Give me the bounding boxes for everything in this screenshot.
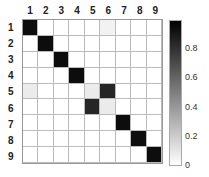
colorbar-tick-label: 0: [185, 160, 190, 170]
heatmap-cell: [23, 52, 38, 68]
x-tick-label: 1: [22, 5, 38, 16]
heatmap-cell: [147, 52, 162, 68]
heatmap-cell: [38, 68, 53, 84]
heatmap-cell: [147, 20, 162, 36]
x-tick-label: 7: [116, 5, 132, 16]
heatmap-cell: [69, 115, 84, 131]
heatmap-cell: [23, 20, 38, 36]
heatmap-cell: [100, 84, 115, 100]
colorbar-tick-label: 0.8: [185, 43, 198, 53]
heatmap-cell: [23, 84, 38, 100]
heatmap-cell: [38, 84, 53, 100]
heatmap-cell: [54, 99, 69, 115]
y-tick-label: 2: [8, 38, 14, 49]
heatmap-cell: [116, 147, 131, 163]
heatmap-cell: [131, 131, 146, 147]
heatmap-cell: [23, 115, 38, 131]
x-tick-label: 5: [85, 5, 101, 16]
heatmap-cell: [69, 99, 84, 115]
colorbar-tick-label: 0.4: [185, 102, 198, 112]
heatmap-cell: [85, 20, 100, 36]
heatmap-cell: [100, 115, 115, 131]
y-tick-label: 8: [8, 135, 14, 146]
y-tick-label: 3: [8, 54, 14, 65]
heatmap-cell: [131, 20, 146, 36]
heatmap-cell: [116, 99, 131, 115]
heatmap-cell: [85, 99, 100, 115]
heatmap-cell: [23, 36, 38, 52]
heatmap-cell: [23, 99, 38, 115]
heatmap-cell: [23, 131, 38, 147]
heatmap-cell: [131, 52, 146, 68]
heatmap-cell: [69, 68, 84, 84]
x-tick-label: 4: [69, 5, 85, 16]
heatmap-cell: [100, 99, 115, 115]
heatmap-cell: [69, 52, 84, 68]
x-tick-label: 2: [38, 5, 54, 16]
heatmap-cell: [116, 36, 131, 52]
y-tick-label: 5: [8, 86, 14, 97]
heatmap-cell: [69, 36, 84, 52]
y-tick-label: 9: [8, 151, 14, 162]
heatmap-cell: [100, 131, 115, 147]
heatmap-cell: [38, 36, 53, 52]
heatmap-cell: [23, 147, 38, 163]
heatmap-cell: [100, 20, 115, 36]
colorbar-tick-label: 0.6: [185, 72, 198, 82]
heatmap-cell: [147, 147, 162, 163]
heatmap-cell: [131, 36, 146, 52]
heatmap-cell: [38, 52, 53, 68]
heatmap-grid: [22, 19, 163, 164]
y-tick-label: 6: [8, 103, 14, 114]
heatmap-cell: [100, 68, 115, 84]
heatmap-cell: [54, 20, 69, 36]
heatmap-cell: [147, 131, 162, 147]
heatmap-cell: [147, 84, 162, 100]
heatmap-cell: [23, 68, 38, 84]
heatmap-cell: [116, 52, 131, 68]
heatmap-cell: [38, 99, 53, 115]
heatmap-cell: [116, 84, 131, 100]
heatmap-cell: [69, 84, 84, 100]
heatmap-cell: [85, 84, 100, 100]
heatmap-cell: [54, 131, 69, 147]
heatmap-cell: [54, 84, 69, 100]
heatmap-cell: [69, 20, 84, 36]
heatmap-cell: [85, 36, 100, 52]
heatmap-cell: [116, 115, 131, 131]
heatmap-cell: [69, 131, 84, 147]
y-tick-label: 1: [8, 22, 14, 33]
heatmap-cell: [100, 147, 115, 163]
heatmap-cell: [131, 68, 146, 84]
x-tick-label: 3: [53, 5, 69, 16]
heatmap-cell: [147, 115, 162, 131]
heatmap-cell: [131, 99, 146, 115]
heatmap-cell: [85, 68, 100, 84]
colorbar-tick-label: 0.2: [185, 131, 198, 141]
heatmap-cell: [54, 52, 69, 68]
heatmap-cell: [69, 147, 84, 163]
x-tick-label: 8: [132, 5, 148, 16]
heatmap-cell: [54, 68, 69, 84]
heatmap-cell: [85, 115, 100, 131]
y-tick-label: 4: [8, 70, 14, 81]
heatmap-cell: [116, 20, 131, 36]
x-tick-label: 9: [147, 5, 163, 16]
heatmap-cell: [85, 131, 100, 147]
heatmap-cell: [38, 131, 53, 147]
y-tick-label: 7: [8, 119, 14, 130]
heatmap-cell: [116, 131, 131, 147]
heatmap-cell: [116, 68, 131, 84]
heatmap-cell: [147, 99, 162, 115]
heatmap-cell: [85, 52, 100, 68]
heatmap-cell: [131, 147, 146, 163]
heatmap-cell: [38, 115, 53, 131]
heatmap-cell: [100, 52, 115, 68]
heatmap-cell: [38, 20, 53, 36]
heatmap-cell: [131, 84, 146, 100]
heatmap-cell: [38, 147, 53, 163]
heatmap-cell: [54, 115, 69, 131]
heatmap-cell: [131, 115, 146, 131]
heatmap-cell: [54, 147, 69, 163]
heatmap-cell: [147, 36, 162, 52]
